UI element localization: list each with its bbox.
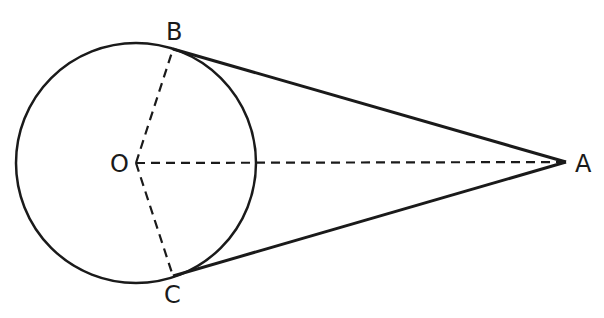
label-a: A [575,152,591,176]
radius-oc-dashed [136,163,173,276]
label-b: B [166,20,182,44]
diagram-canvas: B O A C [0,0,604,318]
segment-oa-dashed [136,162,566,163]
geometry-figure [0,0,604,318]
label-c: C [164,283,181,307]
tangent-ac [173,162,566,276]
label-o: O [110,152,129,176]
tangent-ab [173,49,566,162]
radius-ob-dashed [136,49,173,163]
